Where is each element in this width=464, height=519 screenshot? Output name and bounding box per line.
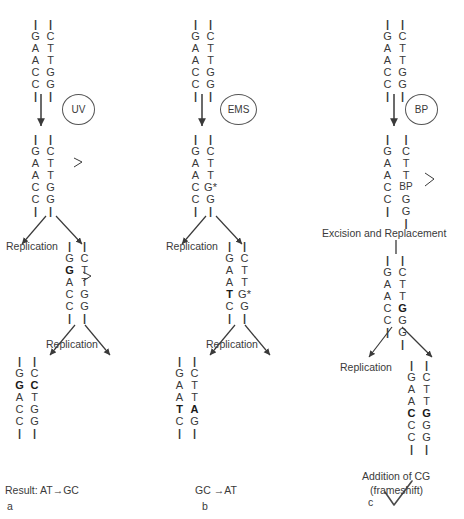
strand-tick: |: [34, 18, 37, 30]
base: G: [206, 66, 215, 78]
mutagenesis-diagram: | G A A C C | | C T T G G | UV: [0, 0, 464, 519]
left-strand: | G A A C C |: [380, 18, 395, 102]
strand-tick: |: [83, 240, 86, 252]
panel-c-letter: c: [368, 496, 373, 508]
base-mutated: T: [176, 403, 183, 415]
base: A: [384, 54, 391, 66]
panel-c-step-4-strand: | G A A C C C | | C T T G G G |: [404, 359, 434, 455]
strand-tick: |: [33, 355, 36, 367]
base: G: [31, 145, 40, 157]
strand-tick: |: [401, 18, 404, 30]
base: A: [384, 169, 391, 181]
right-strand: | C C T G G |: [27, 355, 42, 439]
strand-tick: |: [425, 359, 428, 371]
base: C: [226, 300, 234, 312]
left-strand: | G A A T C |: [172, 355, 187, 439]
base: C: [47, 30, 55, 42]
panel-a-step-2-strand: | G A A C C | | C T T G G |: [28, 133, 58, 217]
base: A: [384, 42, 391, 54]
base: T: [423, 395, 430, 407]
base: G: [407, 371, 416, 383]
base: C: [384, 66, 392, 78]
base: A: [32, 42, 39, 54]
base: A: [32, 54, 39, 66]
base: T: [241, 264, 248, 276]
strand-tick: |: [401, 338, 404, 350]
base: C: [384, 193, 392, 205]
base: A: [226, 264, 233, 276]
panel-b-replication-label-2: Replication: [206, 338, 258, 351]
left-strand: | G G A C C |: [12, 355, 27, 439]
base: G: [46, 78, 55, 90]
base: C: [32, 181, 40, 193]
base-mutated: C: [31, 379, 39, 391]
base: G: [422, 419, 431, 431]
base-inserted: G: [398, 302, 407, 314]
strand-tick: |: [209, 205, 212, 217]
strand-tick: |: [386, 90, 389, 102]
base: C: [81, 252, 89, 264]
base: T: [207, 54, 214, 66]
base: A: [192, 54, 199, 66]
strand-tick: |: [386, 326, 389, 338]
strand-tick: |: [194, 133, 197, 145]
base: C: [399, 30, 407, 42]
base: G: [191, 30, 200, 42]
base: A: [66, 276, 73, 288]
mutagen-uv-badge: UV: [62, 94, 95, 125]
base-alkylated: G*: [238, 288, 251, 300]
base: C: [384, 181, 392, 193]
base: A: [32, 157, 39, 169]
strand-tick: |: [68, 240, 71, 252]
left-strand: | G A A C C |: [28, 133, 43, 217]
base: T: [403, 157, 410, 169]
base: C: [16, 403, 24, 415]
base: C: [192, 78, 200, 90]
strand-tick: |: [425, 443, 428, 455]
base: T: [241, 276, 248, 288]
base: A: [16, 391, 23, 403]
base: G: [80, 288, 89, 300]
strand-tick: |: [49, 133, 52, 145]
base: T: [207, 42, 214, 54]
base: T: [47, 157, 54, 169]
base: C: [47, 145, 55, 157]
base: C: [241, 252, 249, 264]
panel-a-step-3-strand: | G G A C C | | C T T G G |: [62, 240, 92, 324]
strand-tick: |: [243, 240, 246, 252]
base: T: [399, 42, 406, 54]
base: C: [32, 66, 40, 78]
base: A: [408, 383, 415, 395]
left-strand: | G G A C C |: [62, 240, 77, 324]
strand-tick: |: [228, 240, 231, 252]
base: T: [399, 54, 406, 66]
strand-tick: |: [401, 90, 404, 102]
strand-tick: |: [209, 18, 212, 30]
base-mutated: G: [15, 379, 24, 391]
strand-tick: |: [410, 359, 413, 371]
panel-b-replication-label-1: Replication: [166, 240, 218, 253]
base-mutated: T: [226, 288, 233, 300]
right-strand: | C T T G G |: [43, 133, 58, 217]
base: T: [207, 157, 214, 169]
base: G: [15, 367, 24, 379]
strand-tick: |: [33, 427, 36, 439]
base: C: [32, 193, 40, 205]
strand-tick: |: [194, 18, 197, 30]
base: C: [402, 145, 410, 157]
right-strand: | C T T G G G |: [395, 254, 410, 350]
strand-tick: |: [194, 90, 197, 102]
base: C: [207, 145, 215, 157]
panel-a-letter: a: [7, 500, 13, 512]
left-strand: | G A A C C |: [188, 133, 203, 217]
base: T: [399, 278, 406, 290]
base: G: [402, 205, 411, 217]
panel-b-step-4-strand: | G A A T C | | C T T A G |: [172, 355, 202, 439]
base: C: [408, 431, 416, 443]
strand-tick: |: [243, 312, 246, 324]
panel-b-result-label: GC →AT: [195, 484, 237, 497]
strand-tick: |: [83, 312, 86, 324]
strand-tick: |: [34, 205, 37, 217]
mutagen-bp-label: BP: [415, 104, 428, 115]
base: A: [176, 379, 183, 391]
